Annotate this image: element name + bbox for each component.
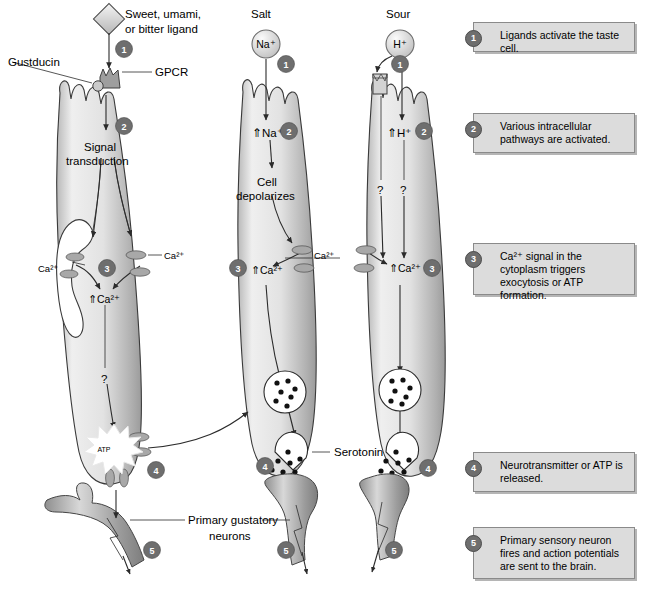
note-text-4: Neurotransmitter or ATP is released. — [500, 459, 623, 484]
note-badge-3: 3 — [465, 251, 482, 268]
note-step-3: 3 Ca²⁺ signal in the cytoplasm triggers … — [473, 243, 635, 295]
salt-label: Salt — [251, 8, 272, 20]
calcium-channel-icon — [60, 270, 78, 278]
note-step-1: 1 Ligands activate the taste cell. — [473, 22, 635, 52]
step-badge-salt-3: 3 — [230, 260, 247, 277]
step-badge-sour-1: 1 — [392, 56, 409, 73]
note-badge-4: 4 — [465, 460, 482, 477]
badge-label: 3 — [235, 264, 240, 274]
step-badge-sweet-5: 5 — [144, 542, 161, 559]
proton-ion-label: H⁺ — [393, 38, 407, 50]
sweet-umami-bitter-cell — [57, 3, 151, 487]
er-calcium-label: Ca²⁺ — [38, 263, 58, 274]
step-badge-salt-2: 2 — [281, 123, 298, 140]
note-badge-1: 1 — [465, 30, 482, 47]
cell-depolarizes-label-1: Cell — [257, 176, 277, 188]
proton-channel-icon — [373, 74, 387, 94]
note-text-3: Ca²⁺ signal in the cytoplasm triggers ex… — [500, 250, 585, 301]
sodium-rise-label: ⇑Na⁺ — [252, 127, 283, 139]
note-step-4: 4 Neurotransmitter or ATP is released. — [473, 452, 635, 492]
atp-label: ATP — [97, 446, 110, 453]
synaptic-vesicle-icon — [264, 371, 306, 413]
salt-cell — [238, 30, 316, 476]
badge-label: 1 — [283, 60, 288, 70]
badge-label: 1 — [397, 60, 402, 70]
calcium-channel-icon — [356, 246, 376, 254]
note-text-1: Ligands activate the taste cell. — [500, 29, 619, 54]
membrane-calcium-label-left: Ca²⁺ — [164, 250, 184, 261]
badge-label: 2 — [421, 127, 426, 137]
gustatory-neuron-label-2: neurons — [209, 530, 251, 542]
badge-label: 5 — [283, 546, 288, 556]
shared-calcium-label: Ca²⁺ — [314, 250, 334, 261]
note-badge-2: 2 — [465, 121, 482, 138]
step-badge-sour-4: 4 — [420, 460, 437, 477]
step-badge-sour-3: 3 — [424, 260, 441, 277]
gustatory-neuron-label-1: Primary gustatory — [188, 514, 278, 526]
signal-transduction-label-2: transduction — [66, 155, 129, 167]
note-step-5: 5 Primary sensory neuron fires and actio… — [473, 527, 635, 579]
taste-transduction-svg: Sweet, umami, or bitter ligand Gustducin… — [0, 0, 645, 590]
step-badge-salt-1: 1 — [278, 56, 295, 73]
calcium-channel-icon — [292, 246, 312, 254]
signal-transduction-label-1: Signal — [84, 141, 116, 153]
gustducin-label: Gustducin — [8, 56, 60, 68]
primary-gustatory-neuron-left — [45, 483, 144, 574]
sweet-ligand-icon — [93, 3, 124, 34]
atp-crosstalk-arrow — [148, 412, 248, 448]
step-badge-salt-4: 4 — [257, 458, 274, 475]
sweet-ligand-label: Sweet, umami, — [125, 8, 201, 20]
unknown-step-sour-right: ? — [400, 184, 406, 196]
calcium-channel-icon — [354, 264, 374, 272]
badge-label: 2 — [121, 122, 126, 132]
badge-label: 4 — [153, 466, 158, 476]
primary-gustatory-neuron-right — [360, 474, 409, 572]
calcium-rise-label-left: ⇑Ca²⁺ — [88, 293, 120, 305]
badge-label: 5 — [391, 546, 396, 556]
calcium-rise-label-right: ⇑Ca²⁺ — [389, 262, 421, 274]
sour-cell — [354, 30, 445, 476]
cell-depolarizes-label-2: depolarizes — [236, 190, 295, 202]
sweet-ligand-label-2: or bitter ligand — [125, 23, 198, 35]
serotonin-label: Serotonin — [334, 446, 383, 458]
proton-rise-label: ⇑H⁺ — [387, 127, 411, 139]
badge-label: 3 — [429, 264, 434, 274]
note-badge-5: 5 — [465, 535, 482, 552]
calcium-rise-label-middle: ⇑Ca²⁺ — [251, 264, 283, 276]
calcium-channel-icon — [294, 264, 314, 272]
step-badge-sour-2: 2 — [416, 123, 433, 140]
badge-label: 4 — [262, 462, 267, 472]
gustducin-icon — [93, 81, 103, 91]
calcium-channel-icon — [66, 253, 84, 261]
badge-label: 2 — [286, 127, 291, 137]
unknown-step-sour-left: ? — [377, 184, 383, 196]
gpcr-label: GPCR — [155, 66, 188, 78]
synaptic-vesicle-icon — [379, 369, 421, 411]
sodium-ion-label: Na⁺ — [256, 38, 275, 50]
badge-label: 1 — [121, 45, 126, 55]
note-step-2: 2 Various intracellular pathways are act… — [473, 113, 635, 153]
calcium-channel-icon — [130, 268, 150, 276]
badge-label: 3 — [104, 264, 109, 274]
step-badge-sweet-4: 4 — [148, 462, 165, 479]
step-badge-sweet-3: 3 — [99, 260, 116, 277]
sour-label: Sour — [386, 8, 410, 20]
step-badge-sweet-1: 1 — [116, 41, 133, 58]
step-badge-salt-5: 5 — [278, 542, 295, 559]
calcium-channel-icon — [126, 251, 146, 259]
diagram-canvas: Sweet, umami, or bitter ligand Gustducin… — [0, 0, 645, 590]
note-text-2: Various intracellular pathways are activ… — [500, 120, 610, 145]
badge-label: 4 — [425, 464, 430, 474]
unknown-step-left: ? — [101, 373, 107, 385]
badge-label: 5 — [149, 546, 154, 556]
step-badge-sour-5: 5 — [386, 542, 403, 559]
note-text-5: Primary sensory neuron fires and action … — [500, 534, 619, 572]
step-badge-sweet-2: 2 — [116, 118, 133, 135]
